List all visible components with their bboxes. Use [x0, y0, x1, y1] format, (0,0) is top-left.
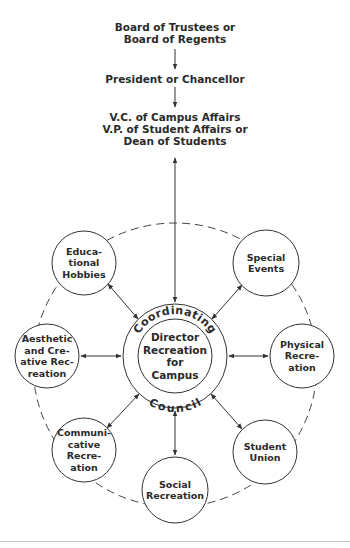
node-line: Recre-	[67, 450, 101, 462]
node-student-union: Student Union	[235, 440, 295, 464]
node-physical-recreation: Physical Recre- ation	[272, 338, 332, 374]
node-communicative-recreation: Communi- cative Recre- ation	[54, 426, 114, 474]
node-special-events: Special Events	[236, 246, 296, 280]
node-line: Events	[248, 263, 284, 275]
center-line-1: Director	[151, 331, 199, 344]
org-diagram: Coordinating Council	[0, 0, 350, 548]
node-line: and Cre-	[24, 345, 69, 357]
node-line: Union	[249, 452, 280, 464]
node-line: Recre-	[285, 350, 319, 362]
center-line-4: Campus	[152, 369, 199, 382]
node-line: Physical	[280, 339, 324, 351]
node-line: Recreation	[146, 490, 204, 502]
center-line-3: for	[167, 356, 184, 369]
node-line: cative	[68, 439, 100, 451]
node-line: Communi-	[57, 427, 111, 439]
node-line: Hobbies	[62, 269, 105, 281]
node-line: ation	[70, 462, 98, 474]
node-line: ative Rec-	[20, 356, 73, 368]
node-line: tional	[69, 257, 100, 269]
spoke-special	[212, 285, 242, 319]
node-social-recreation: Social Recreation	[143, 478, 207, 502]
node-line: Social	[159, 479, 191, 491]
node-line: Special	[247, 252, 286, 264]
node-educational-hobbies: Educa- tional Hobbies	[54, 240, 114, 286]
spoke-educational	[108, 284, 138, 319]
node-line: Aesthetic	[22, 333, 73, 345]
spoke-student-union	[211, 394, 242, 429]
spoke-communicative	[107, 394, 139, 428]
node-line: ation	[288, 362, 316, 374]
node-line: reation	[28, 368, 67, 380]
node-line: Educa-	[66, 246, 102, 258]
node-line: Student	[244, 441, 287, 453]
center-line-2: Recreation	[143, 344, 207, 357]
bottom-divider	[0, 541, 350, 542]
node-aesthetic-creative: Aesthetic and Cre- ative Rec- reation	[17, 332, 77, 380]
center-director-label: Director Recreation for Campus	[138, 330, 212, 382]
